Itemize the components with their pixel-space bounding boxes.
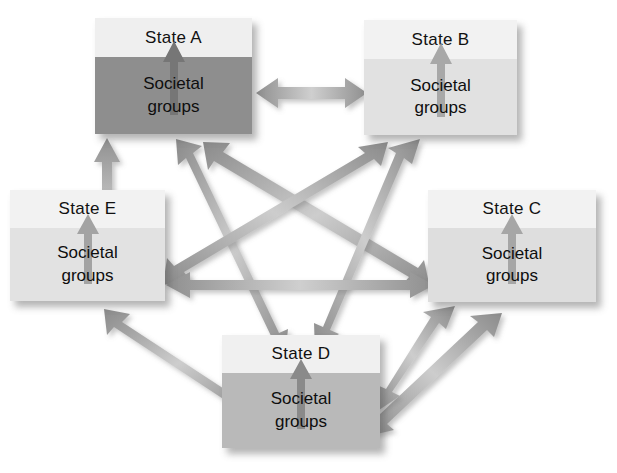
diagram-canvas: State A Societal groups State B Societal… — [0, 0, 617, 473]
state-e-inner-up-arrow — [76, 214, 100, 284]
state-box-c[interactable]: State C Societal groups — [428, 190, 596, 302]
state-c-body: Societal groups — [428, 228, 596, 302]
state-box-d[interactable]: State D Societal groups — [222, 335, 380, 448]
arrow-C-D — [368, 313, 502, 436]
arrow-A-B — [256, 78, 367, 108]
state-a-inner-up-arrow — [162, 41, 186, 115]
state-e-body: Societal groups — [10, 228, 165, 301]
state-box-e[interactable]: State E Societal groups — [10, 190, 165, 301]
state-d-inner-up-arrow — [289, 359, 313, 429]
state-c-inner-up-arrow — [500, 214, 524, 284]
state-box-b[interactable]: State B Societal groups — [364, 20, 517, 135]
state-b-body: Societal groups — [364, 59, 517, 135]
state-a-body: Societal groups — [95, 57, 252, 134]
state-b-inner-up-arrow — [429, 43, 453, 117]
arrow-C-E — [166, 272, 434, 298]
state-d-body: Societal groups — [222, 373, 380, 448]
state-box-a[interactable]: State A Societal groups — [95, 18, 252, 134]
